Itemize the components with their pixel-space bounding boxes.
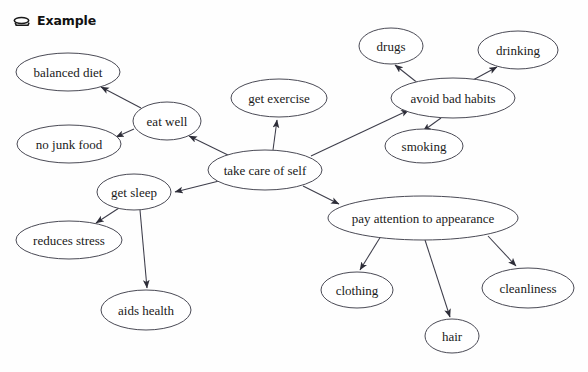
node-label-no-junk-food: no junk food xyxy=(36,137,103,152)
node-label-pay-attention-to-appearance: pay attention to appearance xyxy=(352,211,495,226)
edge-take-care-of-self-to-pay-attention-to-appearance xyxy=(303,186,339,204)
node-label-balanced-diet: balanced diet xyxy=(34,65,103,80)
edge-get-sleep-to-reduces-stress xyxy=(96,208,119,223)
node-label-take-care-of-self: take care of self xyxy=(224,163,307,178)
edge-pay-attention-to-appearance-to-hair xyxy=(425,240,450,317)
edge-pay-attention-to-appearance-to-clothing xyxy=(360,236,381,270)
node-label-avoid-bad-habits: avoid bad habits xyxy=(410,91,495,106)
edge-take-care-of-self-to-get-exercise xyxy=(273,120,277,150)
edge-get-sleep-to-aids-health xyxy=(140,210,147,288)
concept-map-canvas: take care of selfeat wellbalanced dietno… xyxy=(0,0,588,372)
edge-eat-well-to-no-junk-food xyxy=(116,129,134,137)
edge-pay-attention-to-appearance-to-cleanliness xyxy=(488,236,516,266)
concept-map-page: Example take care of selfeat wellbalance… xyxy=(0,0,588,372)
edge-eat-well-to-balanced-diet xyxy=(101,87,141,108)
node-label-drinking: drinking xyxy=(496,43,541,58)
node-label-get-exercise: get exercise xyxy=(248,91,310,106)
node-label-cleanliness: cleanliness xyxy=(499,281,556,296)
edge-take-care-of-self-to-eat-well xyxy=(189,136,232,157)
node-label-smoking: smoking xyxy=(402,139,447,154)
node-label-clothing: clothing xyxy=(336,283,379,298)
node-label-reduces-stress: reduces stress xyxy=(33,233,105,248)
node-label-eat-well: eat well xyxy=(147,114,188,129)
edge-avoid-bad-habits-to-drugs xyxy=(395,65,419,84)
node-label-hair: hair xyxy=(442,329,463,344)
edge-take-care-of-self-to-get-sleep xyxy=(175,181,219,192)
edge-avoid-bad-habits-to-drinking xyxy=(473,67,497,80)
node-label-get-sleep: get sleep xyxy=(111,185,157,200)
node-label-aids-health: aids health xyxy=(118,303,174,318)
node-label-drugs: drugs xyxy=(377,39,406,54)
